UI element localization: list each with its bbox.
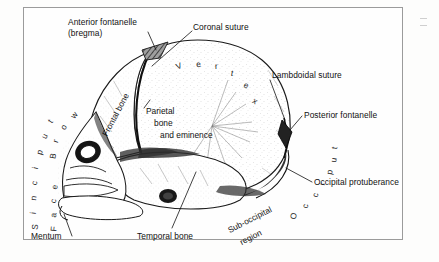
- label-occipital-protuberance: Occipital protuberance: [314, 177, 399, 187]
- label-parietal-bone-line3: and eminence: [160, 130, 213, 140]
- figure-container: Anterior fontanelle (bregma) Coronal sut…: [0, 0, 439, 262]
- label-lambdoidal-suture: Lambdoidal suture: [272, 70, 342, 80]
- region-label-sinciput-glyph: S: [30, 224, 41, 231]
- label-coronal-suture: Coronal suture: [193, 22, 249, 32]
- margin-scan-mark: [420, 25, 427, 26]
- label-temporal-bone: Temporal bone: [137, 231, 193, 241]
- figure-frame-border: [23, 7, 403, 240]
- region-label-sinciput-glyph: n: [28, 195, 38, 201]
- label-posterior-fontanelle: Posterior fontanelle: [304, 110, 377, 120]
- label-anterior-fontanelle-line1: Anterior fontanelle: [68, 17, 137, 27]
- region-label-face-glyph: F: [48, 226, 58, 232]
- margin-scan-mark: [420, 18, 427, 19]
- label-anterior-fontanelle-line2: (bregma): [68, 28, 102, 38]
- label-parietal-bone-line1: Parietal: [146, 106, 174, 116]
- region-label-vertex-glyph: r: [215, 61, 218, 71]
- region-label-face-glyph: a: [48, 212, 58, 218]
- label-anterior-fontanelle: Anterior fontanelle (bregma): [68, 17, 168, 38]
- label-parietal-bone-line2: bone: [154, 118, 173, 128]
- label-mentum: Mentum: [31, 231, 62, 241]
